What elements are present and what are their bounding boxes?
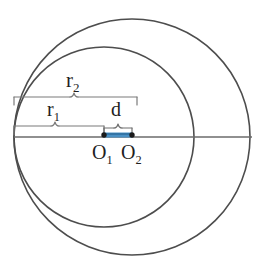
center-point-o1 [101, 132, 106, 137]
label-r2-base: r [66, 68, 73, 92]
label-o1: O1 [92, 142, 113, 166]
center-point-o2 [129, 132, 134, 137]
label-o2: O2 [121, 142, 142, 166]
label-r1-subscript: 1 [54, 110, 60, 124]
label-o1-subscript: 1 [106, 153, 112, 167]
label-o2-base: O [121, 141, 135, 163]
diagram-canvas [0, 0, 268, 275]
label-r2: r2 [66, 70, 80, 94]
label-o1-base: O [92, 141, 106, 163]
label-d-base: d [111, 98, 121, 120]
label-r1-base: r [47, 98, 54, 120]
label-r2-subscript: 2 [73, 80, 80, 95]
label-d: d [111, 99, 121, 123]
geometry-diagram: r2 r1 d O1 O2 [0, 0, 268, 275]
label-r1: r1 [47, 99, 60, 123]
label-o2-subscript: 2 [135, 153, 141, 167]
